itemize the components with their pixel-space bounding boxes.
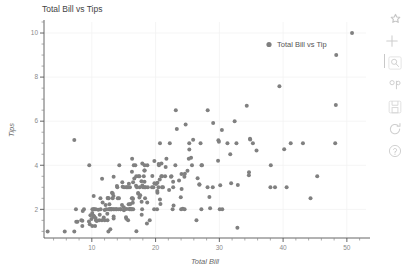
data-point[interactable]	[156, 185, 160, 189]
data-point[interactable]	[80, 224, 84, 228]
data-point[interactable]	[182, 175, 186, 179]
data-point[interactable]	[245, 104, 249, 108]
data-point[interactable]	[145, 201, 149, 205]
data-point[interactable]	[100, 218, 104, 222]
data-point[interactable]	[132, 163, 136, 167]
data-point[interactable]	[98, 213, 102, 217]
data-point[interactable]	[248, 137, 252, 141]
crosshair-icon[interactable]	[382, 32, 402, 50]
data-point[interactable]	[233, 119, 237, 123]
data-point[interactable]	[155, 189, 159, 193]
data-point[interactable]	[75, 220, 79, 224]
data-point[interactable]	[235, 226, 239, 230]
data-point[interactable]	[140, 207, 144, 211]
data-point[interactable]	[160, 185, 164, 189]
data-point[interactable]	[268, 185, 272, 189]
data-point[interactable]	[99, 207, 103, 211]
data-point[interactable]	[236, 183, 240, 187]
data-point[interactable]	[140, 200, 144, 204]
data-point[interactable]	[172, 203, 176, 207]
data-point[interactable]	[197, 182, 201, 186]
data-point[interactable]	[179, 207, 183, 211]
reset-icon[interactable]	[385, 120, 405, 138]
data-point[interactable]	[225, 141, 229, 145]
data-point[interactable]	[168, 141, 172, 145]
data-point[interactable]	[289, 141, 293, 145]
data-point[interactable]	[72, 138, 76, 142]
data-point[interactable]	[88, 213, 92, 217]
scatter-chart[interactable]: 2468101020304050Total BillTips Total Bil…	[0, 0, 410, 276]
data-point[interactable]	[142, 169, 146, 173]
data-point[interactable]	[269, 163, 273, 167]
data-point[interactable]	[159, 174, 163, 178]
data-point[interactable]	[142, 180, 146, 184]
data-point[interactable]	[334, 103, 338, 107]
data-point[interactable]	[46, 229, 50, 233]
data-point[interactable]	[117, 163, 121, 167]
data-point[interactable]	[169, 175, 173, 179]
data-point[interactable]	[148, 218, 152, 222]
data-point[interactable]	[200, 163, 204, 167]
data-point[interactable]	[112, 175, 116, 179]
data-point[interactable]	[106, 229, 110, 233]
data-point[interactable]	[120, 180, 124, 184]
data-point[interactable]	[171, 180, 175, 184]
data-point[interactable]	[130, 157, 134, 161]
data-point[interactable]	[163, 174, 167, 178]
data-point[interactable]	[127, 182, 131, 186]
data-point[interactable]	[315, 174, 319, 178]
data-point[interactable]	[98, 196, 102, 200]
data-point[interactable]	[137, 174, 141, 178]
data-point[interactable]	[251, 141, 255, 145]
data-point[interactable]	[282, 147, 286, 151]
data-point[interactable]	[255, 149, 259, 153]
data-point[interactable]	[216, 138, 220, 142]
data-point[interactable]	[216, 159, 220, 163]
data-point[interactable]	[143, 196, 147, 200]
data-point[interactable]	[177, 178, 181, 182]
data-point[interactable]	[190, 163, 194, 167]
data-point[interactable]	[199, 207, 203, 211]
data-point[interactable]	[333, 141, 337, 145]
zoom-icon[interactable]	[385, 54, 405, 72]
data-point[interactable]	[63, 229, 67, 233]
data-point[interactable]	[285, 185, 289, 189]
data-point[interactable]	[194, 218, 198, 222]
data-point[interactable]	[112, 217, 116, 221]
data-point[interactable]	[218, 207, 222, 211]
data-point[interactable]	[196, 176, 200, 180]
data-point[interactable]	[206, 185, 210, 189]
data-point[interactable]	[111, 196, 115, 200]
data-point[interactable]	[301, 141, 305, 145]
data-point[interactable]	[211, 185, 215, 189]
modebar-toolbar[interactable]	[382, 10, 408, 160]
data-point[interactable]	[87, 163, 91, 167]
data-point[interactable]	[129, 207, 133, 211]
data-point[interactable]	[150, 174, 154, 178]
data-point[interactable]	[350, 31, 354, 35]
data-point[interactable]	[309, 196, 313, 200]
data-point[interactable]	[132, 176, 136, 180]
data-point[interactable]	[145, 221, 149, 225]
save-icon[interactable]	[385, 98, 405, 116]
data-point[interactable]	[138, 185, 142, 189]
data-point[interactable]	[154, 182, 158, 186]
data-point[interactable]	[136, 191, 140, 195]
data-point[interactable]	[116, 196, 120, 200]
data-point[interactable]	[157, 163, 161, 167]
data-point[interactable]	[146, 185, 150, 189]
data-point[interactable]	[81, 209, 85, 213]
data-point[interactable]	[131, 201, 135, 205]
data-point[interactable]	[277, 84, 281, 88]
data-point[interactable]	[89, 217, 93, 221]
data-point[interactable]	[184, 122, 188, 126]
data-point[interactable]	[126, 218, 130, 222]
data-point[interactable]	[167, 188, 171, 192]
help-icon[interactable]	[385, 142, 405, 160]
data-point[interactable]	[175, 127, 179, 131]
data-point[interactable]	[187, 157, 191, 161]
data-point[interactable]	[95, 219, 99, 223]
data-point[interactable]	[142, 174, 146, 178]
data-point[interactable]	[158, 202, 162, 206]
data-point[interactable]	[273, 185, 277, 189]
